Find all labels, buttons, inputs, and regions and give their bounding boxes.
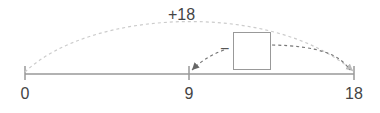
tick-label-0: 0 (21, 86, 30, 102)
big-jump-label: +18 (168, 7, 195, 23)
answer-box[interactable] (233, 32, 271, 70)
minus-sign: − (220, 41, 229, 57)
tick-label-9: 9 (185, 86, 194, 102)
tick-label-18: 18 (345, 86, 363, 102)
jump-arc-right (272, 45, 350, 70)
